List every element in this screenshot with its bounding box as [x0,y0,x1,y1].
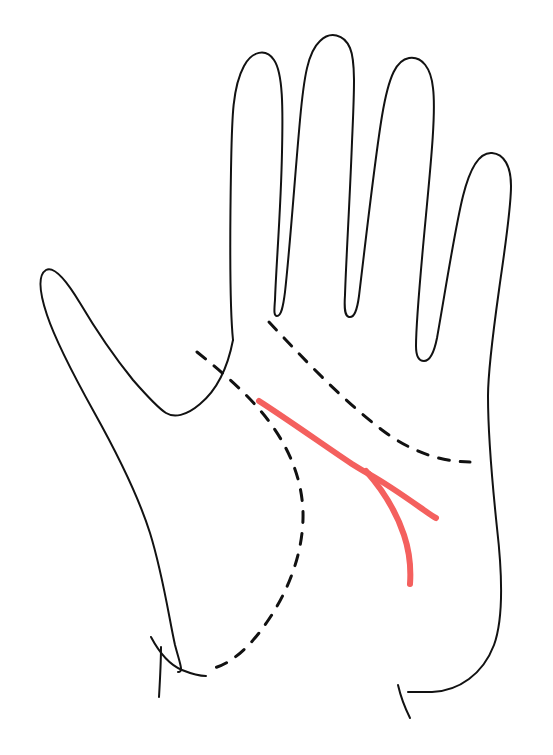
palm-diagram-svg [0,0,553,755]
diagram-background [0,0,553,755]
palm-diagram-root [0,0,553,755]
